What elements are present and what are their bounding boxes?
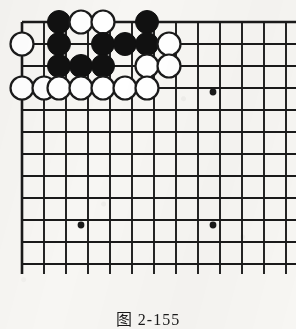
white-stone bbox=[11, 77, 34, 100]
white-stone bbox=[70, 77, 93, 100]
black-stone bbox=[48, 55, 71, 78]
white-stone bbox=[70, 11, 93, 34]
black-stone bbox=[136, 11, 159, 34]
white-stone bbox=[11, 33, 34, 56]
white-stone bbox=[136, 77, 159, 100]
black-stone bbox=[92, 55, 115, 78]
white-stone bbox=[92, 11, 115, 34]
black-stone bbox=[48, 11, 71, 34]
black-stone bbox=[48, 33, 71, 56]
figure-caption-text: 图 2-155 bbox=[116, 311, 180, 328]
figure-caption: 图 2-155 bbox=[0, 306, 296, 329]
star-point bbox=[210, 222, 217, 229]
star-point bbox=[78, 222, 85, 229]
go-board bbox=[0, 0, 296, 300]
white-stone bbox=[136, 55, 159, 78]
black-stone bbox=[70, 55, 93, 78]
white-stone bbox=[92, 77, 115, 100]
white-stone bbox=[158, 55, 181, 78]
white-stone bbox=[48, 77, 71, 100]
black-stone bbox=[114, 33, 137, 56]
black-stone bbox=[92, 33, 115, 56]
white-stone bbox=[114, 77, 137, 100]
white-stone bbox=[158, 33, 181, 56]
star-point bbox=[210, 89, 217, 96]
go-figure: 图 2-155 bbox=[0, 0, 296, 329]
stones-group bbox=[11, 11, 181, 100]
black-stone bbox=[136, 33, 159, 56]
